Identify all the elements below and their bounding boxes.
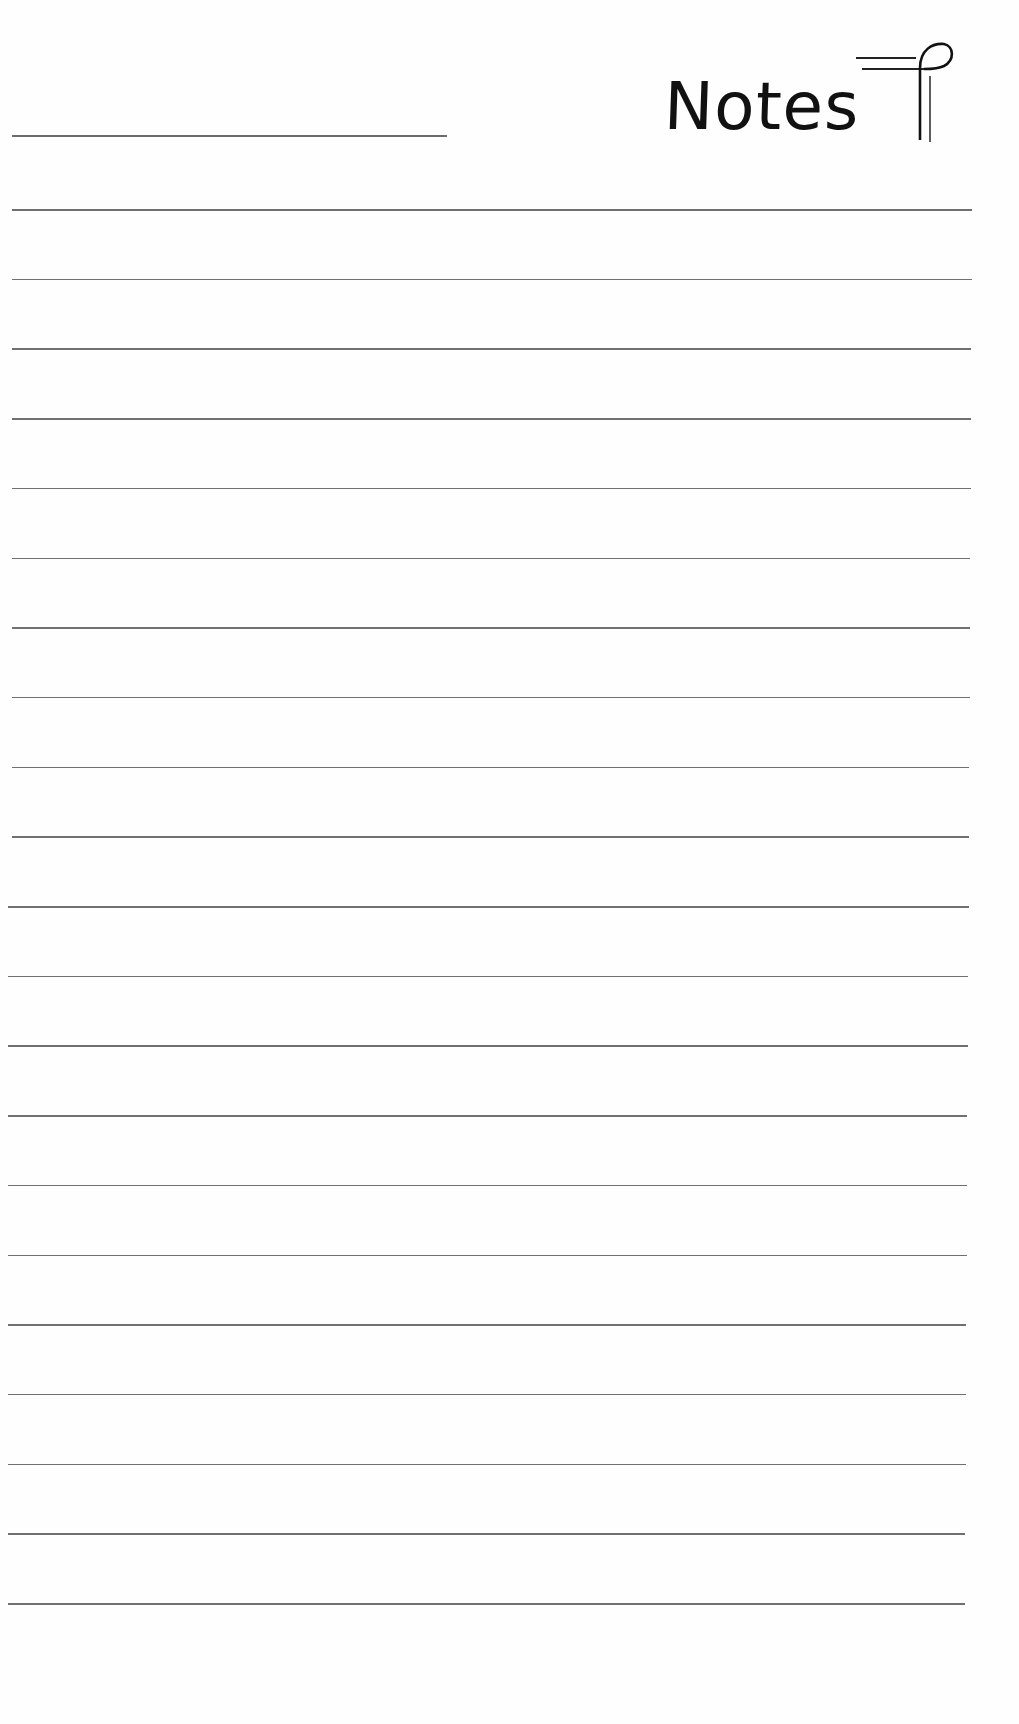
- notes-page: Notes: [0, 0, 1019, 1724]
- ruled-line: [12, 836, 969, 838]
- ruled-line: [8, 1464, 966, 1466]
- pilcrow-icon: [848, 40, 958, 150]
- ruled-line: [8, 1603, 965, 1605]
- ruled-line: [8, 1324, 966, 1326]
- ruled-line: [12, 209, 972, 211]
- name-line: [12, 135, 447, 137]
- ruled-line: [8, 906, 969, 908]
- ruled-line: [8, 1255, 967, 1257]
- ruled-line: [8, 1115, 967, 1117]
- ruled-line: [8, 1185, 967, 1187]
- ruled-line: [8, 1533, 965, 1535]
- ruled-line: [12, 558, 970, 560]
- ruled-line: [8, 976, 968, 978]
- ruled-line: [12, 488, 971, 490]
- ruled-line: [12, 418, 971, 420]
- ruled-line: [8, 1394, 966, 1396]
- ruled-line: [12, 697, 970, 699]
- ruled-line: [12, 279, 972, 281]
- ruled-line: [12, 767, 969, 769]
- ruled-line: [12, 627, 970, 629]
- page-title: Notes: [663, 74, 861, 140]
- ruled-line: [8, 1045, 968, 1047]
- ruled-line: [12, 348, 971, 350]
